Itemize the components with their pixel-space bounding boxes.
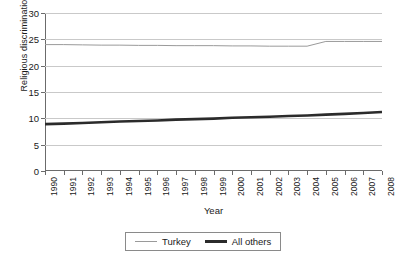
y-tick-label: 25 bbox=[28, 34, 39, 45]
x-tick-mark bbox=[157, 171, 158, 175]
x-tick-mark bbox=[195, 171, 196, 175]
series-line-all-others bbox=[45, 112, 382, 124]
x-tick-mark bbox=[45, 171, 46, 175]
x-tick-mark bbox=[232, 171, 233, 175]
x-tick-mark bbox=[307, 171, 308, 175]
x-tick-label: 2002 bbox=[274, 177, 284, 196]
x-axis-title: Year bbox=[45, 205, 382, 216]
x-tick-mark bbox=[120, 171, 121, 175]
y-tick-label: 20 bbox=[28, 60, 39, 71]
x-tick-label: 2004 bbox=[311, 177, 321, 196]
x-tick-label: 2001 bbox=[255, 177, 265, 196]
x-tick-label: 1998 bbox=[199, 177, 209, 196]
x-tick-mark bbox=[139, 171, 140, 175]
y-tick-label: 0 bbox=[34, 166, 39, 177]
x-tick-label: 2003 bbox=[292, 177, 302, 196]
y-tick-label: 30 bbox=[28, 8, 39, 19]
x-tick-label: 1999 bbox=[218, 177, 228, 196]
x-tick-mark bbox=[64, 171, 65, 175]
x-tick-mark bbox=[214, 171, 215, 175]
x-tick-label: 2006 bbox=[349, 177, 359, 196]
x-tick-label: 1997 bbox=[180, 177, 190, 196]
x-tick-label: 1991 bbox=[68, 177, 78, 196]
x-tick-label: 2005 bbox=[330, 177, 340, 196]
x-tick-label: 2007 bbox=[367, 177, 377, 196]
series-line-turkey bbox=[45, 41, 382, 46]
legend-item-all-others[interactable]: All others bbox=[205, 236, 272, 247]
x-tick-label: 1993 bbox=[105, 177, 115, 196]
legend-line-turkey-icon bbox=[135, 241, 157, 242]
y-tick-label: 5 bbox=[34, 139, 39, 150]
x-tick-label: 2000 bbox=[236, 177, 246, 196]
x-tick-label: 1992 bbox=[86, 177, 96, 196]
y-tick-label: 15 bbox=[28, 87, 39, 98]
chart-legend: Turkey All others bbox=[125, 232, 281, 251]
x-tick-mark bbox=[345, 171, 346, 175]
x-tick-label: 1994 bbox=[124, 177, 134, 196]
x-tick-mark bbox=[288, 171, 289, 175]
x-tick-label: 2008 bbox=[386, 177, 396, 196]
x-tick-label: 1995 bbox=[143, 177, 153, 196]
x-tick-mark bbox=[270, 171, 271, 175]
legend-label-all-others: All others bbox=[232, 236, 272, 247]
legend-line-all-others-icon bbox=[205, 240, 227, 243]
x-tick-mark bbox=[176, 171, 177, 175]
x-tick-mark bbox=[363, 171, 364, 175]
series-layer bbox=[45, 13, 382, 171]
legend-item-turkey[interactable]: Turkey bbox=[135, 236, 191, 247]
x-tick-mark bbox=[101, 171, 102, 175]
legend-label-turkey: Turkey bbox=[162, 236, 191, 247]
plot-area: 051015202530 199019911992199319941995199… bbox=[45, 13, 382, 171]
y-tick-label: 10 bbox=[28, 113, 39, 124]
x-tick-mark bbox=[326, 171, 327, 175]
x-tick-label: 1990 bbox=[49, 177, 59, 196]
x-tick-label: 1996 bbox=[161, 177, 171, 196]
x-tick-mark bbox=[382, 171, 383, 175]
x-tick-mark bbox=[251, 171, 252, 175]
x-tick-mark bbox=[82, 171, 83, 175]
